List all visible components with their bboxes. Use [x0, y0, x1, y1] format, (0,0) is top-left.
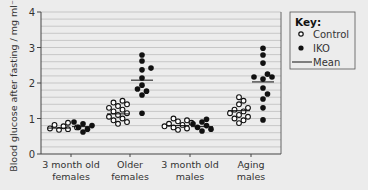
x-label-2-line1: 3 month old — [161, 159, 218, 170]
control-point — [111, 109, 116, 114]
control-point — [116, 104, 121, 109]
x-label-1-line1: Older — [117, 159, 143, 170]
control-point — [116, 121, 121, 126]
iko-point — [260, 117, 266, 123]
chart-figure: Blood glucose after fasting / mg ml⁻¹ 3 … — [0, 0, 368, 190]
x-label-0-line2: females — [52, 171, 90, 182]
iko-point — [260, 96, 266, 102]
control-point — [120, 107, 125, 112]
iko-point — [135, 86, 141, 92]
y-tick-1: 1 — [29, 114, 35, 125]
control-point — [66, 127, 71, 132]
control-point — [52, 122, 57, 127]
control-point — [125, 111, 130, 116]
iko-point — [260, 76, 266, 82]
control-point — [246, 105, 251, 110]
iko-point — [208, 126, 214, 132]
iko-point — [251, 74, 257, 80]
control-point — [120, 98, 125, 103]
control-point — [111, 118, 116, 123]
control-point — [228, 111, 233, 116]
scatter-chart: Blood glucose after fasting / mg ml⁻¹ 3 … — [0, 0, 368, 190]
control-point — [241, 98, 246, 103]
control-point — [176, 119, 181, 124]
control-point — [107, 105, 112, 110]
iko-point — [265, 71, 271, 77]
control-point — [246, 114, 251, 119]
control-point — [237, 113, 242, 118]
y-tick-4: 4 — [29, 7, 35, 18]
iko-point — [139, 52, 145, 58]
y-axis-label: Blood glucose after fasting / mg ml⁻¹ — [8, 0, 19, 172]
iko-point — [85, 126, 91, 132]
iko-point — [139, 58, 145, 64]
x-label-3-line2: males — [237, 171, 266, 182]
control-point — [116, 113, 121, 118]
filled-circle-icon — [298, 45, 303, 50]
iko-point — [260, 105, 266, 111]
control-point — [232, 107, 237, 112]
x-label-1-line2: females — [111, 171, 149, 182]
x-axis-labels: 3 month old females Older females 3 mont… — [42, 159, 265, 182]
iko-point — [199, 128, 205, 134]
legend-title: Key: — [295, 16, 321, 28]
iko-point — [204, 116, 210, 122]
iko-point — [89, 123, 95, 129]
control-point — [237, 95, 242, 100]
iko-point — [139, 67, 145, 73]
y-tick-3: 3 — [29, 43, 35, 54]
control-point — [111, 100, 116, 105]
iko-point — [80, 121, 86, 127]
control-point — [125, 102, 130, 107]
iko-point — [148, 65, 154, 71]
iko-point — [260, 60, 266, 66]
iko-point — [265, 91, 271, 97]
legend-iko-label: IKO — [313, 43, 330, 54]
iko-point — [71, 119, 77, 125]
iko-point — [204, 123, 210, 129]
control-point — [185, 118, 190, 123]
iko-point — [260, 52, 266, 58]
control-point — [237, 121, 242, 126]
iko-point — [260, 85, 266, 91]
iko-point — [76, 125, 82, 131]
iko-point — [260, 45, 266, 51]
control-point — [185, 126, 190, 131]
control-point — [66, 120, 71, 125]
open-circle-icon — [299, 32, 303, 36]
legend-key: Key: Control IKO Mean — [290, 12, 355, 69]
axes — [37, 12, 281, 157]
control-point — [180, 122, 185, 127]
control-point — [120, 116, 125, 121]
iko-point — [144, 88, 150, 94]
iko-point — [139, 82, 145, 88]
control-point — [125, 120, 130, 125]
iko-point — [139, 92, 145, 98]
x-label-0-line1: 3 month old — [42, 159, 99, 170]
x-label-3-line1: Aging — [237, 159, 264, 170]
y-tick-2: 2 — [29, 78, 35, 89]
y-tick-0: 0 — [29, 149, 35, 160]
x-label-2-line2: males — [176, 171, 205, 182]
iko-point — [139, 110, 145, 116]
y-tick-labels: 0 1 2 3 4 — [29, 7, 35, 160]
legend-mean-label: Mean — [313, 57, 340, 68]
control-point — [241, 118, 246, 123]
control-point — [171, 116, 176, 121]
control-point — [237, 102, 242, 107]
iko-point — [190, 121, 196, 127]
control-point — [107, 114, 112, 119]
control-point — [232, 116, 237, 121]
iko-point — [195, 125, 201, 131]
control-point — [241, 109, 246, 114]
legend-control-label: Control — [313, 29, 349, 40]
